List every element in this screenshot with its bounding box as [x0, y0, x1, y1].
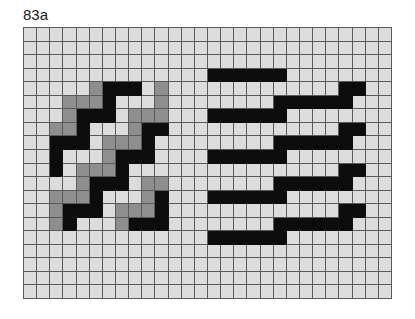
empty-cell	[379, 204, 392, 218]
black-cell	[274, 231, 287, 245]
empty-cell	[182, 150, 195, 164]
pattern-grid	[23, 27, 392, 299]
empty-cell	[234, 272, 247, 286]
black-cell	[353, 204, 366, 218]
empty-cell	[169, 285, 182, 299]
empty-cell	[90, 218, 103, 232]
empty-cell	[221, 28, 234, 42]
empty-cell	[339, 231, 352, 245]
empty-cell	[339, 272, 352, 286]
empty-cell	[50, 28, 63, 42]
empty-cell	[287, 245, 300, 259]
empty-cell	[313, 42, 326, 56]
empty-cell	[37, 285, 50, 299]
empty-cell	[63, 285, 76, 299]
empty-cell	[221, 123, 234, 137]
black-cell	[103, 109, 116, 123]
empty-cell	[326, 55, 339, 69]
empty-cell	[129, 258, 142, 272]
empty-cell	[366, 164, 379, 178]
empty-cell	[300, 204, 313, 218]
empty-cell	[326, 231, 339, 245]
empty-cell	[379, 258, 392, 272]
empty-cell	[50, 258, 63, 272]
empty-cell	[195, 69, 208, 83]
empty-cell	[379, 109, 392, 123]
empty-cell	[326, 272, 339, 286]
black-cell	[339, 136, 352, 150]
empty-cell	[37, 177, 50, 191]
empty-cell	[313, 204, 326, 218]
empty-cell	[129, 285, 142, 299]
empty-cell	[195, 231, 208, 245]
empty-cell	[24, 42, 37, 56]
empty-cell	[247, 164, 260, 178]
empty-cell	[339, 109, 352, 123]
empty-cell	[208, 204, 221, 218]
empty-cell	[379, 245, 392, 259]
empty-cell	[182, 258, 195, 272]
empty-cell	[234, 42, 247, 56]
empty-cell	[169, 204, 182, 218]
empty-cell	[300, 123, 313, 137]
empty-cell	[234, 55, 247, 69]
black-cell	[313, 96, 326, 110]
gray-cell	[77, 164, 90, 178]
empty-cell	[261, 245, 274, 259]
empty-cell	[366, 285, 379, 299]
empty-cell	[103, 231, 116, 245]
empty-cell	[37, 123, 50, 137]
gray-cell	[142, 204, 155, 218]
empty-cell	[129, 69, 142, 83]
empty-cell	[50, 177, 63, 191]
empty-cell	[339, 69, 352, 83]
empty-cell	[366, 55, 379, 69]
empty-cell	[37, 42, 50, 56]
empty-cell	[169, 258, 182, 272]
empty-cell	[221, 136, 234, 150]
empty-cell	[353, 136, 366, 150]
black-cell	[208, 109, 221, 123]
black-cell	[353, 82, 366, 96]
empty-cell	[195, 42, 208, 56]
empty-cell	[234, 164, 247, 178]
empty-cell	[63, 42, 76, 56]
empty-cell	[142, 55, 155, 69]
empty-cell	[339, 28, 352, 42]
gray-cell	[142, 177, 155, 191]
black-cell	[261, 109, 274, 123]
empty-cell	[116, 191, 129, 205]
empty-cell	[313, 150, 326, 164]
empty-cell	[155, 272, 168, 286]
black-cell	[261, 231, 274, 245]
empty-cell	[274, 272, 287, 286]
empty-cell	[326, 28, 339, 42]
gray-cell	[90, 96, 103, 110]
black-cell	[77, 109, 90, 123]
black-cell	[90, 204, 103, 218]
empty-cell	[247, 204, 260, 218]
black-cell	[50, 136, 63, 150]
empty-cell	[37, 204, 50, 218]
black-cell	[116, 177, 129, 191]
black-cell	[142, 218, 155, 232]
black-cell	[339, 164, 352, 178]
black-cell	[274, 177, 287, 191]
empty-cell	[208, 218, 221, 232]
empty-cell	[353, 285, 366, 299]
empty-cell	[195, 272, 208, 286]
empty-cell	[313, 164, 326, 178]
empty-cell	[195, 136, 208, 150]
empty-cell	[234, 123, 247, 137]
empty-cell	[379, 55, 392, 69]
empty-cell	[234, 245, 247, 259]
black-cell	[221, 231, 234, 245]
empty-cell	[300, 258, 313, 272]
empty-cell	[221, 245, 234, 259]
empty-cell	[353, 69, 366, 83]
empty-cell	[366, 258, 379, 272]
empty-cell	[208, 82, 221, 96]
empty-cell	[221, 42, 234, 56]
empty-cell	[169, 69, 182, 83]
empty-cell	[24, 136, 37, 150]
